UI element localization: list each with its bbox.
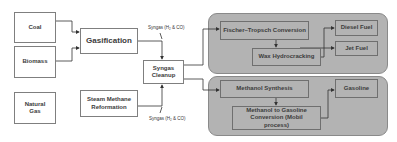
methanol-to-gasoline-box: Methanol to Gasoline Conversion (Mobil p…	[232, 106, 321, 130]
coal-box: Coal	[14, 12, 56, 43]
gasoline-box: Gasoline	[335, 79, 378, 98]
biomass-box: Biomass	[14, 46, 56, 78]
wax-hydrocracking-box: Wax Hydrocracking	[252, 48, 321, 66]
diesel-fuel-box: Diesel Fuel	[335, 20, 378, 36]
syngas-label-top: Syngas (H₂ & CO)	[148, 25, 185, 30]
fischer-tropsch-conversion-box: Fischer–Tropsch Conversion	[220, 21, 309, 40]
natural-gas-box: Natural Gas	[14, 92, 56, 124]
syngas-label-bottom: Syngas (H₂ & CO)	[149, 116, 186, 121]
syngas-cleanup-box: Syngas Cleanup	[143, 60, 184, 84]
gasification-box: Gasification	[80, 28, 138, 54]
steam-methane-reformation-box: Steam Methane Reformation	[80, 90, 138, 117]
jet-fuel-box: Jet Fuel	[335, 41, 378, 56]
methanol-synthesis-box: Methanol Synthesis	[220, 80, 309, 98]
